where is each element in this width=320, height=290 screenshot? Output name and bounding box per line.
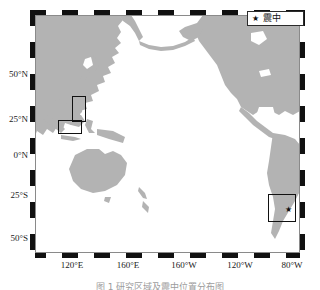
frame-band-left bbox=[30, 10, 35, 258]
x-tick-label-120w: 120°W bbox=[227, 260, 253, 270]
map-legend[interactable]: ★ 震中 bbox=[247, 11, 304, 26]
legend-label: 震中 bbox=[263, 14, 281, 23]
y-tick-label-50n: 50°N bbox=[0, 69, 28, 79]
x-tick-label-80w: 80°W bbox=[281, 260, 302, 270]
y-tick-label-25n: 25°N bbox=[0, 114, 28, 124]
world-map-svg bbox=[35, 15, 300, 253]
map-plot-area: ★ ★ 震中 bbox=[30, 10, 305, 258]
x-tick-label-160e: 160°E bbox=[117, 260, 140, 270]
frame-band-bottom bbox=[30, 253, 305, 258]
figure-caption: 图 1 研究区域及震中位置分布图 bbox=[0, 280, 320, 290]
y-tick-label-50s: 50°S bbox=[0, 233, 28, 243]
x-tick-label-160w: 160°W bbox=[171, 260, 197, 270]
study-box-taiwan bbox=[72, 96, 86, 122]
map-canvas bbox=[35, 15, 300, 253]
study-box-south-china-sea bbox=[58, 120, 82, 134]
figure-container: ★ ★ 震中 50°N 25°N 0°N 25°S 50°S 120°E 160… bbox=[0, 0, 320, 290]
frame-band-right bbox=[300, 10, 305, 258]
epicenter-marker: ★ bbox=[285, 206, 292, 214]
legend-star-icon: ★ bbox=[252, 15, 259, 23]
y-tick-label-0n: 0°N bbox=[0, 150, 28, 160]
x-tick-label-120e: 120°E bbox=[61, 260, 84, 270]
study-box-chile bbox=[268, 194, 296, 222]
y-tick-label-25s: 25°S bbox=[0, 190, 28, 200]
